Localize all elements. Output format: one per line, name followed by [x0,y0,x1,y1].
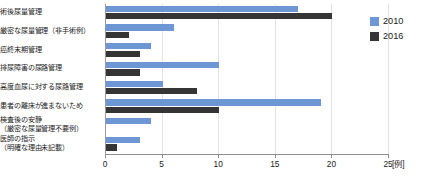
category-label-line: 高度血尿に対する尿路管理 [0,83,101,92]
bar-group [106,42,389,60]
bar-group [106,60,389,78]
category-label-line: 癌終末期管理 [0,46,101,55]
bar-group [106,4,389,22]
category-label: 癌終末期管理 [0,46,101,55]
bar-group [106,23,389,41]
legend-label: 2016 [383,31,403,41]
x-tick [331,154,332,158]
x-tick [162,154,163,158]
category-label-line: 医師の指示 [0,135,101,144]
category-label-line: （明確な理由未記載） [0,144,101,153]
chart-legend: 20102016 [370,16,431,46]
category-axis-labels: 術後尿量管理厳密な尿量管理（非手術例）癌終末期管理排尿障害の尿路管理高度血尿に対… [0,4,103,154]
bar-2010 [106,6,298,12]
x-tick-label: 5 [159,159,164,169]
bar-group [106,117,389,135]
x-tick-label: 20 [327,159,336,169]
bar-2016 [106,32,129,38]
x-axis-unit-label: [例] [392,159,405,169]
legend-item[interactable]: 2016 [370,31,431,41]
legend-label: 2010 [383,16,403,26]
x-tick [105,154,106,158]
category-label-line: （厳密な尿量管理不要例） [0,125,101,134]
bar-2010 [106,99,321,105]
bar-2016 [106,144,117,150]
category-label: 検査後の安静（厳密な尿量管理不要例） [0,116,101,133]
bar-2016 [106,13,332,19]
legend-swatch-icon [370,17,379,26]
category-label: 排尿障害の尿路管理 [0,64,101,73]
plot-area [105,4,388,154]
category-label-line: 排尿障害の尿路管理 [0,64,101,73]
category-label-line: 術後尿量管理 [0,8,101,17]
bar-2010 [106,137,140,143]
category-label-line: 患者の離床が進まないため [0,102,101,111]
x-axis-line [105,154,388,155]
category-label: 患者の離床が進まないため [0,102,101,111]
bar-2016 [106,88,197,94]
x-tick [388,154,389,158]
bar-2010 [106,81,163,87]
category-label-line: 検査後の安静 [0,116,101,125]
legend-item[interactable]: 2010 [370,16,431,26]
bar-group [106,98,389,116]
x-tick [218,154,219,158]
category-label: 厳密な尿量管理（非手術例） [0,27,101,36]
x-tick-label: 15 [270,159,279,169]
category-label: 術後尿量管理 [0,8,101,17]
bar-2010 [106,24,174,30]
legend-swatch-icon [370,32,379,41]
category-label: 医師の指示（明確な理由未記載） [0,135,101,152]
bar-2010 [106,118,151,124]
category-label-line: 厳密な尿量管理（非手術例） [0,27,101,36]
bar-group [106,79,389,97]
category-label: 高度血尿に対する尿路管理 [0,83,101,92]
bar-2016 [106,51,140,57]
bar-2010 [106,62,219,68]
x-tick [275,154,276,158]
bar-2016 [106,69,140,75]
bar-2010 [106,43,151,49]
bar-chart: 術後尿量管理厳密な尿量管理（非手術例）癌終末期管理排尿障害の尿路管理高度血尿に対… [0,0,431,179]
bar-2016 [106,107,219,113]
bar-group [106,135,389,153]
x-tick-label: 10 [214,159,223,169]
x-tick-label: 0 [103,159,108,169]
